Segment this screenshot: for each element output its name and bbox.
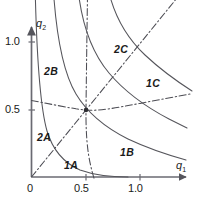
solid-contour-2 xyxy=(54,0,186,160)
x-tick-label-1.0: 1.0 xyxy=(128,183,143,194)
y-tick-label-0.5: 0.5 xyxy=(5,104,20,115)
region-label-1c: 1C xyxy=(146,78,160,89)
y-axis-label-subscript: 2 xyxy=(42,24,46,31)
x-axis-label-subscript: 1 xyxy=(182,166,186,173)
solid-contours-group xyxy=(35,0,192,177)
x-axis-label: q1 xyxy=(176,160,186,173)
region-label-2c: 2C xyxy=(114,44,128,55)
y-axis-label: q2 xyxy=(36,18,46,31)
figure-container: 1.0 0.5 0 0.5 1.0 q2 q1 2B 2C 1C 2A 1A 1… xyxy=(0,0,200,202)
separatrix-group xyxy=(32,0,193,180)
plot-canvas xyxy=(0,0,200,202)
region-label-1a: 1A xyxy=(64,160,78,171)
solid-contour-3 xyxy=(79,0,187,128)
separatrix-diagonal xyxy=(32,0,191,177)
solid-contour-1 xyxy=(35,0,128,177)
region-label-2a: 2A xyxy=(37,132,51,143)
separatrix-vertical xyxy=(86,0,95,180)
region-label-1b: 1B xyxy=(120,147,134,158)
x-tick-label-0.5: 0.5 xyxy=(74,183,89,194)
origin-tick-label: 0 xyxy=(27,183,33,194)
axes-group xyxy=(29,27,187,181)
y-tick-label-1.0: 1.0 xyxy=(5,36,20,47)
separatrix-horizontal xyxy=(32,94,193,111)
region-label-2b: 2B xyxy=(44,66,58,77)
central-node-point xyxy=(84,108,89,113)
